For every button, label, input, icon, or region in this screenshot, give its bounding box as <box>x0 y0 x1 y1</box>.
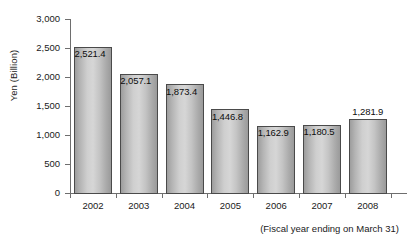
y-tick-label: 1,500 <box>14 101 60 111</box>
y-tick-label: 500 <box>14 159 60 169</box>
x-tick-label-2008: 2008 <box>357 200 378 211</box>
bar-2002 <box>74 47 112 194</box>
y-tick-label: 3,000 <box>14 14 60 24</box>
bar-value-label: 1,281.9 <box>352 107 383 117</box>
x-tick-label-2003: 2003 <box>128 200 149 211</box>
bar-2003 <box>120 74 158 194</box>
x-tick-mark <box>253 194 254 198</box>
x-tick-mark <box>391 194 392 198</box>
x-tick-label-2004: 2004 <box>174 200 195 211</box>
bar-value-label: 1,180.5 <box>304 127 335 137</box>
x-tick-label-2005: 2005 <box>220 200 241 211</box>
bar-value-label: 1,873.4 <box>166 87 197 97</box>
bar-chart: Yen (Billion) 05001,0001,5002,0002,5003,… <box>0 0 412 246</box>
x-tick-mark <box>345 194 346 198</box>
y-tick-label: 1,000 <box>14 130 60 140</box>
x-tick-mark <box>299 194 300 198</box>
x-tick-label-2002: 2002 <box>82 200 103 211</box>
y-tick-label: 0 <box>14 188 60 198</box>
fiscal-year-footnote: (Fiscal year ending on March 31) <box>0 223 399 234</box>
x-tick-label-2006: 2006 <box>266 200 287 211</box>
bar-2008 <box>349 119 387 194</box>
y-tick-label: 2,000 <box>14 72 60 82</box>
bar-value-label: 1,162.9 <box>258 128 289 138</box>
y-axis-line <box>70 19 71 194</box>
x-tick-mark <box>207 194 208 198</box>
y-axis-tick-labels: 05001,0001,5002,0002,5003,000 <box>14 0 60 246</box>
bar-value-label: 2,057.1 <box>120 76 151 86</box>
y-tick-label: 2,500 <box>14 43 60 53</box>
x-tick-mark <box>162 194 163 198</box>
bar-2004 <box>166 84 204 194</box>
bar-2005 <box>211 109 249 194</box>
bar-value-label: 2,521.4 <box>75 49 106 59</box>
bar-value-label: 1,446.8 <box>212 112 243 122</box>
x-tick-label-2007: 2007 <box>311 200 332 211</box>
x-tick-mark <box>116 194 117 198</box>
x-tick-mark <box>70 194 71 198</box>
